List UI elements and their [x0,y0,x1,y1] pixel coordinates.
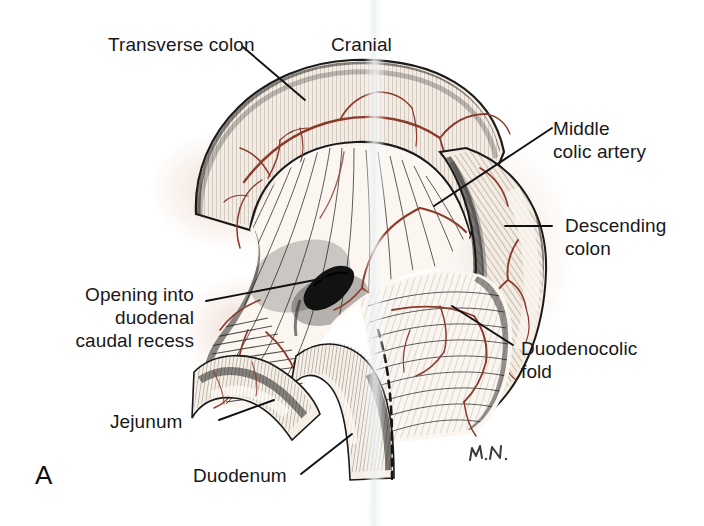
label-transverse-colon: Transverse colon [108,33,255,56]
anatomy-illustration [0,0,704,526]
label-middle-colic-artery-line1: Middle [553,117,610,140]
label-jejunum: Jejunum [110,410,183,433]
label-descending-colon-line2: colon [565,237,611,260]
label-opening-recess-line2: duodenal [0,306,194,329]
label-duodenocolic-fold-line2: fold [521,360,552,383]
label-opening-recess-line3: caudal recess [0,329,194,352]
label-opening-recess-line1: Opening into [0,283,194,306]
anatomical-figure: Transverse colon Cranial Middle colic ar… [0,0,704,526]
label-middle-colic-artery-line2: colic artery [553,140,646,163]
panel-letter-a: A [35,462,52,488]
label-cranial: Cranial [331,33,392,56]
label-descending-colon-line1: Descending [565,214,666,237]
scan-seam [364,0,386,526]
label-duodenocolic-fold-line1: Duodenocolic [521,337,637,360]
label-duodenum: Duodenum [193,464,287,487]
